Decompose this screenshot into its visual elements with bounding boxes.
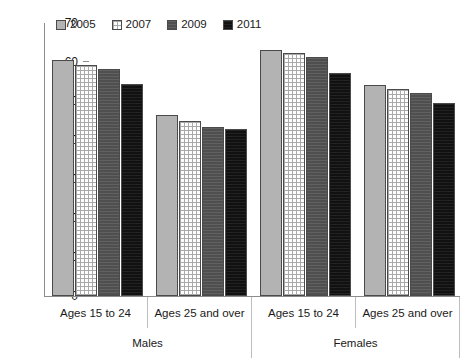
bar-2005[interactable] <box>156 115 178 296</box>
bar-2011[interactable] <box>121 84 143 296</box>
x-axis-category-label: Ages 25 and over <box>148 297 252 328</box>
bar-2011[interactable] <box>329 73 351 296</box>
bar-group <box>149 23 253 296</box>
x-axis-category-label: Ages 25 and over <box>356 297 460 328</box>
bar-group <box>45 23 149 296</box>
x-axis-category-label: Ages 15 to 24 <box>252 297 356 328</box>
bar-group <box>253 23 357 296</box>
bar-2011[interactable] <box>433 103 455 296</box>
bar-2009[interactable] <box>202 127 224 296</box>
x-axis-labels: Ages 15 to 24Ages 25 and overAges 15 to … <box>44 297 460 360</box>
bar-2011[interactable] <box>225 129 247 296</box>
bar-chart: 2005200720092011 706050403020100 Ages 15… <box>0 0 470 360</box>
bar-2007[interactable] <box>283 53 305 296</box>
bar-2005[interactable] <box>52 60 74 296</box>
bar-2009[interactable] <box>410 93 432 296</box>
bar-2005[interactable] <box>260 50 282 296</box>
bar-2009[interactable] <box>98 69 120 296</box>
x-axis-group-row: MalesFemales <box>44 328 460 358</box>
x-axis-category-row: Ages 15 to 24Ages 25 and overAges 15 to … <box>44 297 460 328</box>
x-axis-category-label: Ages 15 to 24 <box>44 297 148 328</box>
bar-2007[interactable] <box>387 89 409 296</box>
bar-group <box>357 23 461 296</box>
bar-2005[interactable] <box>364 85 386 296</box>
bar-2007[interactable] <box>75 65 97 296</box>
x-axis-group-label: Males <box>44 328 252 358</box>
bar-2009[interactable] <box>306 57 328 296</box>
bar-2007[interactable] <box>179 121 201 297</box>
plot-area: 706050403020100 <box>44 23 459 296</box>
x-axis-group-label: Females <box>252 328 460 358</box>
